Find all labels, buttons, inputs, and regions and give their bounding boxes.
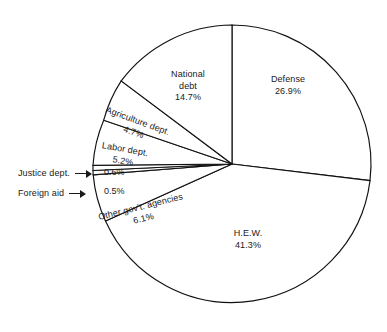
callout-foreign-aid-label: Foreign aid xyxy=(18,188,64,199)
slice-label-national-debt-name-line2: debt xyxy=(148,81,228,93)
slice-label-hew-value: 41.3% xyxy=(208,240,288,252)
arrow-right-icon xyxy=(69,189,86,198)
pie-slice-defense[interactable] xyxy=(232,25,371,181)
slice-label-defense: Defense 26.9% xyxy=(253,74,323,97)
slice-label-hew-name: H.E.W. xyxy=(234,228,263,238)
slice-label-defense-value: 26.9% xyxy=(253,86,323,98)
arrow-right-icon xyxy=(75,169,92,178)
slice-label-national-debt-value: 14.7% xyxy=(148,92,228,104)
callout-justice-dept-label: Justice dept. xyxy=(18,168,70,179)
callout-justice-dept: Justice dept. xyxy=(18,168,92,179)
slice-label-national-debt-name-line1: National xyxy=(171,69,205,79)
pie-chart: Defense 26.9% National debt 14.7% H.E.W.… xyxy=(0,0,387,332)
slice-value-foreign-aid: 0.5% xyxy=(104,186,125,196)
pie-chart-canvas xyxy=(0,0,387,332)
slice-value-justice-dept: 0.6% xyxy=(104,167,125,177)
callout-foreign-aid: Foreign aid xyxy=(18,188,86,199)
slice-label-defense-name: Defense xyxy=(271,74,305,84)
slice-label-national-debt: National debt 14.7% xyxy=(148,69,228,104)
slice-label-hew: H.E.W. 41.3% xyxy=(208,228,288,251)
